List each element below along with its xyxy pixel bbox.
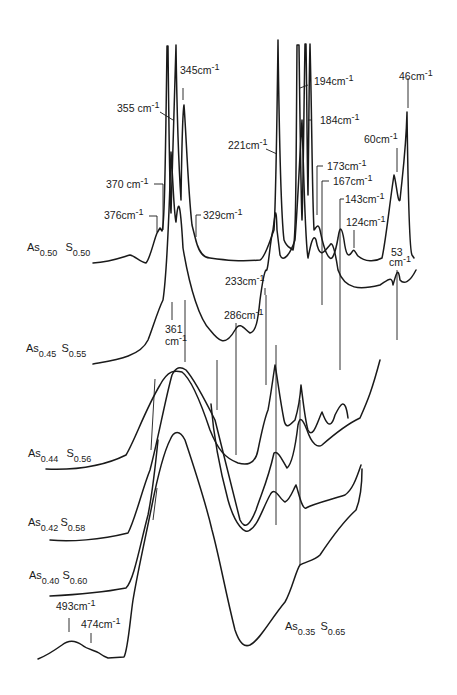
composition-labels: As0.50S0.50 As0.45S0.55 As0.44S0.56 As0.…	[26, 241, 345, 637]
composition-as050-s050: As0.50S0.50	[27, 241, 90, 258]
trace-as042-s058	[50, 360, 380, 541]
label-370: 370 cm-1	[106, 176, 148, 190]
label-233: 233cm-1	[225, 273, 265, 287]
composition-as040-s060: As0.40S0.60	[29, 569, 87, 586]
label-355: 355 cm-1	[117, 100, 159, 114]
peak-labels: 345cm-1 355 cm-1 194cm-1 184cm-1 46cm-1 …	[56, 62, 433, 630]
trace-as044-s056	[46, 365, 348, 469]
label-184: 184cm-1	[320, 112, 360, 126]
label-46: 46cm-1	[399, 68, 433, 82]
label-143: 143cm-1	[345, 191, 385, 205]
label-173: 173cm-1	[327, 158, 367, 172]
composition-as035-s065: As0.35S0.65	[285, 620, 345, 637]
label-474: 474cm-1	[81, 616, 121, 630]
label-493: 493cm-1	[56, 598, 96, 612]
label-221: 221cm-1	[228, 137, 268, 151]
label-60: 60cm-1	[364, 131, 398, 145]
label-124: 124cm-1	[346, 214, 386, 228]
composition-as044-s056: As0.44S0.56	[28, 447, 91, 464]
label-329: 329cm-1	[203, 207, 243, 221]
composition-as045-s055: As0.45S0.55	[26, 342, 86, 359]
label-194: 194cm-1	[314, 73, 354, 87]
label-376: 376cm-1	[104, 207, 144, 221]
label-361-unit: cm-1	[165, 333, 187, 347]
raman-spectra-figure: 345cm-1 355 cm-1 194cm-1 184cm-1 46cm-1 …	[0, 0, 457, 695]
trace-as050-s050	[93, 40, 414, 263]
label-345: 345cm-1	[180, 62, 220, 76]
label-167: 167cm-1	[333, 173, 373, 187]
composition-as042-s058: As0.42S0.58	[28, 516, 85, 533]
trace-as045-s055	[93, 120, 416, 364]
label-53-unit: cm-1	[389, 254, 411, 268]
